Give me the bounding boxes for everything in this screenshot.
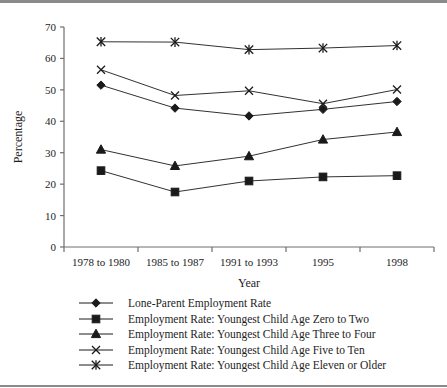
bottom-divider-rule <box>0 385 447 387</box>
data-point-marker-diamond <box>97 81 105 89</box>
data-point-marker-square <box>393 172 401 180</box>
y-tick-label: 50 <box>45 84 57 96</box>
legend-item-2[interactable]: Employment Rate: Youngest Child Age Zero… <box>0 312 447 326</box>
y-axis-title: Percentage <box>11 111 25 164</box>
y-tick-label: 60 <box>45 52 57 64</box>
legend-marker-asterisk-icon <box>78 358 114 372</box>
y-tick-label: 40 <box>45 115 57 127</box>
legend-marker-triangle-icon <box>78 327 114 341</box>
line-chart: 010203040506070 1978 to 19801985 to 1987… <box>0 6 447 291</box>
series-2 <box>97 167 401 196</box>
data-point-marker-diamond <box>171 104 179 112</box>
x-tick-labels: 1978 to 19801985 to 19871991 to 19931995… <box>72 256 409 268</box>
series-5 <box>97 37 401 54</box>
x-tick-label: 1991 to 1993 <box>220 256 279 268</box>
data-point-marker-square <box>97 167 105 175</box>
legend-label: Lone-Parent Employment Rate <box>128 296 271 310</box>
legend-marker-cross-icon <box>78 343 114 357</box>
chart-axes <box>60 27 434 252</box>
plot-area-wrapper: 010203040506070 1978 to 19801985 to 1987… <box>0 6 447 291</box>
y-tick-label: 30 <box>45 147 57 159</box>
legend-item-4[interactable]: Employment Rate: Youngest Child Age Five… <box>0 343 447 357</box>
legend-marker-square-icon <box>78 312 114 326</box>
y-tick-labels: 010203040506070 <box>45 21 57 253</box>
data-point-marker-triangle <box>91 329 100 337</box>
y-tick-label: 0 <box>51 241 57 253</box>
data-point-marker-square <box>171 188 179 196</box>
chart-legend: Lone-Parent Employment RateEmployment Ra… <box>0 296 447 376</box>
x-tick-label: 1985 to 1987 <box>146 256 205 268</box>
x-tick-label: 1978 to 1980 <box>72 256 131 268</box>
legend-item-5[interactable]: Employment Rate: Youngest Child Age Elev… <box>0 358 447 372</box>
data-point-marker-triangle <box>96 145 105 153</box>
series-4 <box>97 66 401 108</box>
legend-item-1[interactable]: Lone-Parent Employment Rate <box>0 296 447 310</box>
series-3 <box>96 127 401 169</box>
figure-container: 010203040506070 1978 to 19801985 to 1987… <box>0 0 447 388</box>
legend-label: Employment Rate: Youngest Child Age Five… <box>128 343 365 357</box>
data-point-marker-diamond <box>92 299 100 307</box>
legend-marker-diamond-icon <box>78 296 114 310</box>
chart-series-group <box>96 37 401 196</box>
legend-label: Employment Rate: Youngest Child Age Elev… <box>128 358 386 372</box>
y-tick-label: 70 <box>45 21 57 33</box>
x-tick-label: 1995 <box>312 256 335 268</box>
series-line <box>101 132 397 166</box>
legend-label: Employment Rate: Youngest Child Age Zero… <box>128 312 369 326</box>
data-point-marker-cross <box>97 66 105 74</box>
data-point-marker-square <box>319 173 327 181</box>
x-tick-label: 1998 <box>386 256 409 268</box>
x-axis-title: Year <box>238 276 260 290</box>
series-1 <box>97 81 401 120</box>
y-tick-label: 10 <box>45 210 57 222</box>
data-point-marker-diamond <box>245 112 253 120</box>
data-point-marker-cross <box>393 86 401 94</box>
legend-label: Employment Rate: Youngest Child Age Thre… <box>128 327 376 341</box>
data-point-marker-diamond <box>393 97 401 105</box>
legend-item-3[interactable]: Employment Rate: Youngest Child Age Thre… <box>0 327 447 341</box>
top-divider-rule <box>0 0 447 3</box>
data-point-marker-square <box>245 177 253 185</box>
y-tick-label: 20 <box>45 178 57 190</box>
data-point-marker-square <box>92 315 100 323</box>
data-point-marker-triangle <box>392 127 401 135</box>
